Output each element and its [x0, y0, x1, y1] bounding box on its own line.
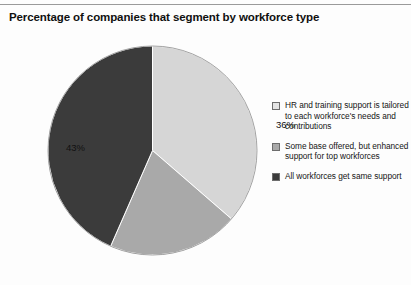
legend-swatch-icon — [272, 102, 280, 110]
legend-item-label: Some base offered, but enhanced support … — [285, 141, 411, 162]
header-divider — [0, 4, 411, 5]
legend-item-all-same-support: All workforces get same support — [272, 171, 411, 182]
chart-legend: HR and training support is tailored to e… — [272, 100, 411, 191]
legend-item-some-base-offered: Some base offered, but enhanced support … — [272, 141, 411, 162]
legend-item-tailored-support: HR and training support is tailored to e… — [272, 100, 411, 132]
legend-swatch-icon — [272, 173, 280, 181]
page-title: Percentage of companies that segment by … — [9, 10, 401, 24]
chart-figure: Percentage of companies that segment by … — [0, 0, 411, 285]
legend-swatch-icon — [272, 143, 280, 151]
legend-item-label: All workforces get same support — [285, 171, 402, 182]
slice-label-43: 43% — [66, 142, 85, 153]
pie-chart: 36% 20% 43% — [45, 43, 260, 258]
legend-item-label: HR and training support is tailored to e… — [285, 100, 411, 132]
